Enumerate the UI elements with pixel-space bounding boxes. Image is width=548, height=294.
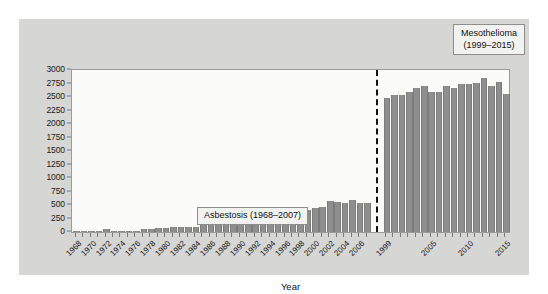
x-axis-tick-mark [82,233,83,237]
x-axis-tick-mark [142,233,143,237]
x-axis-tick-mark [445,233,446,237]
x-axis-tick-mark [284,233,285,237]
bar [96,231,103,232]
x-axis-tick-mark [209,233,210,237]
bar [436,92,443,232]
x-axis-tick-mark [291,233,292,237]
y-axis-tick-label: 1250 [46,159,65,169]
x-axis-tick-mark [179,233,180,237]
x-axis-tick-mark [407,233,408,237]
bar [443,86,450,232]
x-axis-tick-label: 2005 [415,239,438,262]
bar [73,231,80,232]
x-axis-tick-mark [246,233,247,237]
bar [421,86,428,232]
bar [103,229,110,232]
bar [111,231,118,232]
bar [88,231,95,232]
x-axis-tick-mark [430,233,431,237]
bar [466,84,473,233]
bar [357,203,364,232]
bar [200,224,207,232]
x-axis-tick-mark [336,233,337,237]
y-axis-tick-label: 1000 [46,172,65,182]
bar [342,203,349,232]
bar [391,95,398,232]
x-axis-tick-mark [460,233,461,237]
x-axis-tick-mark [127,233,128,237]
x-axis-tick-mark [351,233,352,237]
bar [481,78,488,232]
bar [185,227,192,232]
y-axis-tick-label: 2000 [46,118,65,128]
x-axis-tick-mark [134,233,135,237]
bar [81,231,88,232]
x-axis-tick-mark [75,233,76,237]
x-axis-tick-mark [216,233,217,237]
y-axis-tick-label: 1500 [46,145,65,155]
bar [488,86,495,232]
x-axis-tick-mark [467,233,468,237]
bar [399,95,406,232]
x-axis-tick-mark [437,233,438,237]
series-divider [376,70,378,232]
x-axis-tick-label: 2010 [452,239,475,262]
chart-figure: Mesothelioma (1999–2015) 025050075010001… [19,19,529,275]
x-axis-tick-label: 1999 [370,239,393,262]
x-axis-tick-mark [400,233,401,237]
bar [428,92,435,232]
x-axis-tick-mark [119,233,120,237]
x-axis-tick-mark [321,233,322,237]
bar [458,84,465,232]
y-axis-tick-label: 750 [51,186,65,196]
bar [413,88,420,232]
x-axis-tick-mark [157,233,158,237]
y-axis-tick-label: 250 [51,213,65,223]
x-axis-tick-mark [149,233,150,237]
bar [451,88,458,232]
x-axis-tick-mark [201,233,202,237]
x-axis-tick-mark [343,233,344,237]
x-axis-tick-mark [489,233,490,237]
bar [473,83,480,232]
bar [384,98,391,232]
y-axis-tick-label: 500 [51,199,65,209]
bar [327,201,334,232]
x-axis-tick-mark [385,233,386,237]
asbestosis-callout: Asbestosis (1968–2007) [197,207,308,225]
mesothelioma-callout-line1: Mesothelioma [461,28,517,40]
bar [496,82,503,232]
x-axis-tick-mark [269,233,270,237]
x-axis-tick-mark [261,233,262,237]
x-axis-tick-mark [298,233,299,237]
x-axis-tick-mark [112,233,113,237]
x-axis-tick-mark [482,233,483,237]
mesothelioma-callout-line2: (1999–2015) [461,40,517,52]
y-axis-tick-label: 1750 [46,132,65,142]
x-axis-tick-mark [358,233,359,237]
x-axis-tick-mark [254,233,255,237]
x-axis-tick-mark [164,233,165,237]
x-axis-tick-mark [224,233,225,237]
x-axis-tick-mark [474,233,475,237]
x-axis-tick-mark [231,233,232,237]
x-axis-tick-mark [328,233,329,237]
bar [334,202,341,232]
x-axis-tick-mark [97,233,98,237]
x-axis-tick-mark [194,233,195,237]
y-axis-tick-label: 2250 [46,105,65,115]
x-axis-tick-mark [392,233,393,237]
bar [319,207,326,232]
x-axis-tick-mark [276,233,277,237]
y-axis-tick-label: 0 [60,226,65,236]
bar [118,231,125,232]
bar [193,227,200,232]
x-axis-tick-mark [172,233,173,237]
bar [133,231,140,233]
bar [208,224,215,232]
x-axis-tick-mark [105,233,106,237]
y-axis-tick-label: 2500 [46,91,65,101]
x-axis-tick-mark [497,233,498,237]
x-axis-tick-mark [366,233,367,237]
mesothelioma-callout: Mesothelioma (1999–2015) [453,24,525,55]
